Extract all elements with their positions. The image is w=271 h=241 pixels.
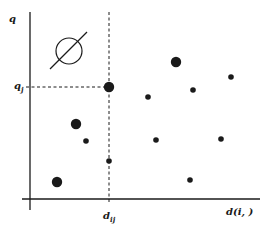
y-axis-label: q [9, 14, 16, 24]
data-points [52, 57, 234, 187]
dashed-guides [26, 12, 109, 203]
data-point [190, 87, 196, 93]
data-point [52, 177, 62, 187]
x-axis-label: d(i, ) [226, 207, 253, 217]
data-point [71, 119, 81, 129]
data-point [187, 177, 193, 183]
data-point [83, 138, 89, 144]
empty-set-icon [50, 32, 87, 69]
data-point [153, 137, 159, 143]
scatter-diagram [0, 0, 271, 241]
data-point [218, 136, 224, 142]
data-point [171, 57, 181, 67]
data-point [106, 158, 112, 164]
d-ij-label: dij [103, 211, 115, 223]
data-point [145, 94, 151, 100]
data-point [228, 74, 234, 80]
empty-set-circle [56, 38, 82, 64]
q-j-label: qj [14, 81, 24, 93]
data-point [104, 82, 114, 92]
